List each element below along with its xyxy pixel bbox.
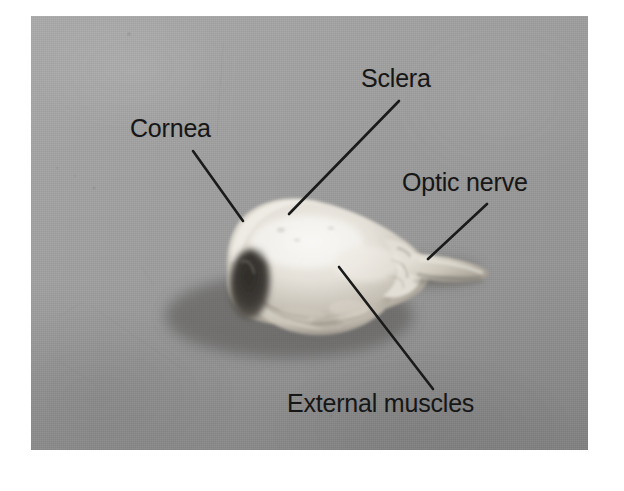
annotation-label-sclera: Sclera bbox=[361, 66, 431, 91]
leader-lines bbox=[0, 0, 624, 491]
leader-line-optic-nerve bbox=[428, 204, 487, 259]
annotation-label-optic-nerve: Optic nerve bbox=[402, 170, 528, 195]
annotation-layer: Cornea Sclera Optic nerve External muscl… bbox=[0, 0, 624, 491]
leader-line-cornea bbox=[193, 151, 243, 221]
leader-line-external-muscles bbox=[339, 267, 433, 389]
annotation-label-cornea: Cornea bbox=[130, 116, 211, 141]
figure-root: Cornea Sclera Optic nerve External muscl… bbox=[0, 0, 624, 491]
annotation-label-external-muscles: External muscles bbox=[287, 391, 474, 416]
leader-line-sclera bbox=[289, 101, 399, 214]
